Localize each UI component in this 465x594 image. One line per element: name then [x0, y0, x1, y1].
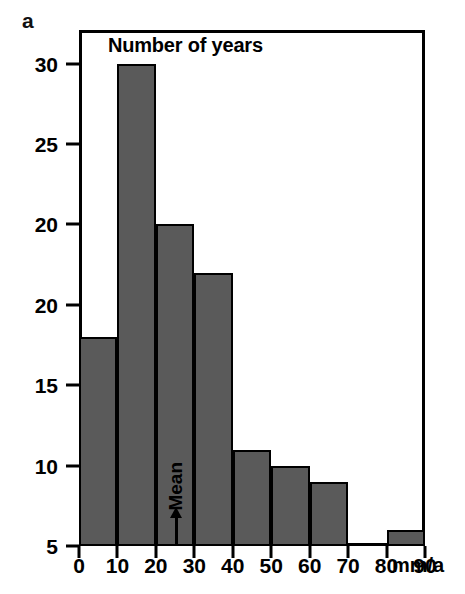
histogram-bar — [79, 337, 117, 546]
x-tick-label: 0 — [73, 555, 85, 576]
histogram-bar — [194, 273, 232, 546]
y-tick-label: 15 — [14, 375, 58, 396]
histogram-bar — [117, 64, 155, 546]
x-tick-label: 40 — [221, 555, 244, 576]
y-tick-label: 10 — [14, 455, 58, 476]
histogram-bar — [271, 466, 309, 546]
panel-label: a — [22, 10, 34, 31]
x-tick-label: 20 — [144, 555, 167, 576]
histogram-bar — [233, 450, 271, 546]
y-tick-mark — [66, 142, 79, 145]
y-tick-label: 30 — [14, 53, 58, 74]
y-tick-label: 25 — [14, 133, 58, 154]
x-tick-label: 50 — [260, 555, 283, 576]
y-tick-label: 20 — [14, 294, 58, 315]
x-axis-unit-label: mm/a — [392, 555, 444, 575]
histogram-bar — [310, 482, 348, 546]
mean-arrow-icon — [175, 516, 178, 546]
y-tick-label: 5 — [14, 536, 58, 557]
x-tick-label: 60 — [298, 555, 321, 576]
y-tick-label: 20 — [14, 214, 58, 235]
y-tick-mark — [66, 384, 79, 387]
y-tick-mark — [66, 303, 79, 306]
histogram-figure: a Number of years 3025202015105 01020304… — [0, 0, 465, 594]
y-tick-mark — [66, 62, 79, 65]
chart-title: Number of years — [108, 34, 263, 57]
x-tick-label: 70 — [336, 555, 359, 576]
histogram-bar — [387, 530, 425, 546]
y-tick-mark — [66, 223, 79, 226]
mean-label: Mean — [166, 462, 185, 511]
x-tick-label: 30 — [183, 555, 206, 576]
y-tick-mark — [66, 464, 79, 467]
x-tick-label: 10 — [106, 555, 129, 576]
